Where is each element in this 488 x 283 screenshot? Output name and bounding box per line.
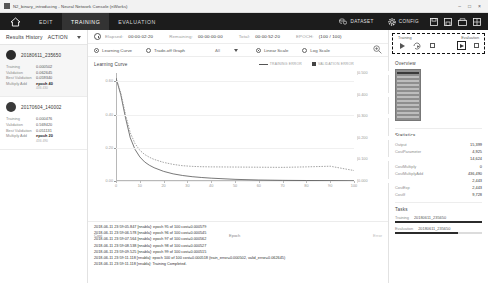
evaluation-control-label: Evaluation <box>461 36 479 40</box>
legend-item-training-error[interactable]: TRAINING ERROR <box>259 62 302 66</box>
training-play-icon[interactable] <box>398 41 407 50</box>
legend-item-validation-error[interactable]: VALIDATION ERROR <box>312 62 354 66</box>
total-label: Total: <box>239 34 250 39</box>
statistic-value: 2,443 <box>472 177 482 184</box>
axis-label-epoch: Epoch <box>229 233 240 238</box>
filter-dropdown[interactable]: All <box>215 48 238 53</box>
radio-learning-curve[interactable]: Learning Curve <box>94 48 132 53</box>
radio-log-scale[interactable]: Log Scale <box>302 48 330 53</box>
axis-label-error: Error <box>373 233 382 238</box>
x-tick <box>354 181 355 183</box>
statistic-value: 15,399 <box>470 141 482 148</box>
remaining-value: 00:00:00:00 <box>198 34 223 39</box>
radio-icon <box>94 48 99 53</box>
metric-key: Multiply Add <box>6 81 36 87</box>
elapsed-value: 00:00:02:20 <box>128 34 153 39</box>
y-tick-label-right: 0.100 <box>357 157 457 161</box>
result-card-1[interactable]: 20170604_140002 Training0.000476 Validat… <box>0 97 87 149</box>
tab-training[interactable]: TRAINING <box>62 13 109 30</box>
close-icon[interactable]: × <box>478 4 481 9</box>
result-id: 20180611_235650 <box>21 53 61 58</box>
statistic-name: CostIf <box>395 191 472 198</box>
evaluation-play-icon[interactable] <box>457 41 466 50</box>
x-tick-label: 40 <box>209 184 213 188</box>
window-title: N2_binary_introducing - Neural Network C… <box>13 4 128 9</box>
axis-label-cost: Cost <box>94 233 102 238</box>
chart-legend: TRAINING ERROR VALIDATION ERROR <box>259 62 354 66</box>
dataset-button[interactable]: DATASET <box>332 18 380 25</box>
task-row[interactable]: Training20180611_235650 <box>395 215 482 223</box>
evaluation-stop-icon[interactable] <box>472 41 481 50</box>
sidebar-header: Results History ACTION <box>0 30 87 45</box>
series-validation-error <box>116 78 354 171</box>
legend-label: TRAINING ERROR <box>270 62 302 66</box>
filter-value: All <box>215 48 220 53</box>
grid-line <box>116 81 354 82</box>
minimize-icon[interactable]: – <box>458 4 461 9</box>
tab-edit[interactable]: EDIT <box>30 13 62 30</box>
elapsed-label: Elapsed: <box>105 34 123 39</box>
radio-tradeoff-graph[interactable]: Trade-off Graph <box>146 48 185 53</box>
dataset-label: DATASET <box>350 19 373 24</box>
x-tick-label: 70 <box>280 184 284 188</box>
network-diagram-thumbnail[interactable] <box>395 69 421 121</box>
x-tick-label: 30 <box>185 184 189 188</box>
save-as-icon[interactable] <box>444 18 452 26</box>
radio-linear-scale-label: Linear Scale <box>264 48 288 53</box>
tasks-title: Tasks <box>389 203 488 215</box>
run-controls: Training Evaluation <box>392 33 485 54</box>
plot-area[interactable]: 0.000.200.400.600.0000.1000.2000.3000.40… <box>116 73 354 181</box>
statistic-row: CostMultiply0 <box>395 163 482 170</box>
tab-evaluation[interactable]: EVALUATION <box>109 13 165 30</box>
epoch-value: (100 / 100) <box>319 34 342 39</box>
task-label: Evaluation <box>395 226 413 231</box>
x-tick <box>235 181 236 183</box>
body: Results History ACTION 20180611_235650 T… <box>0 30 488 283</box>
metric-subvalue: 436 490 <box>6 139 81 143</box>
maximize-icon[interactable]: □ <box>468 4 471 9</box>
training-resume-play-icon[interactable] <box>413 41 422 50</box>
statistic-name: CostExp <box>395 184 472 191</box>
graph-options-bar: Learning Curve Trade-off Graph All Linea… <box>88 44 388 57</box>
x-tick <box>259 181 260 183</box>
task-row[interactable]: Evaluation20180611_235650 <box>395 226 482 234</box>
legend-swatch <box>312 62 316 66</box>
statistic-row: CostIf9,728 <box>395 191 482 198</box>
zoom-in-icon[interactable] <box>373 45 382 55</box>
radio-linear-scale[interactable]: Linear Scale <box>256 48 288 53</box>
run-controls-buttons <box>396 41 481 50</box>
action-menu-label[interactable]: ACTION <box>48 34 68 40</box>
chevron-down-icon[interactable] <box>77 36 81 39</box>
app-icon <box>4 3 10 9</box>
config-label: CONFIG <box>399 19 419 24</box>
total-value: 00:00:52:20 <box>255 34 280 39</box>
x-tick-label: 50 <box>233 184 237 188</box>
result-status-dot <box>6 102 16 112</box>
nav-icon-group <box>426 18 488 26</box>
statistic-value: 14,624 <box>470 155 482 162</box>
y-tick-label-right: 0.000 <box>357 179 457 183</box>
export-icon[interactable] <box>458 18 467 26</box>
metric-subvalue: 436 430 <box>6 86 81 90</box>
task-progress-fill <box>395 221 482 223</box>
x-tick <box>116 181 117 183</box>
grid-icon[interactable] <box>473 18 481 26</box>
save-icon[interactable] <box>430 18 438 26</box>
result-card-0[interactable]: 20180611_235650 Training0.000502 Validat… <box>0 45 87 97</box>
statistic-row: CostParameter4,925 <box>395 148 482 155</box>
config-button[interactable]: CONFIG <box>381 18 426 26</box>
training-log[interactable]: 2018-06-11 23:59:05.847 [nnabla]: epoch … <box>88 221 388 283</box>
nav-bar: EDIT TRAINING EVALUATION DATASET CONFIG <box>0 13 488 30</box>
nav-right-group: DATASET CONFIG <box>332 13 488 30</box>
home-icon[interactable] <box>0 17 30 27</box>
x-tick <box>187 181 188 183</box>
x-tick <box>283 181 284 183</box>
training-stop-icon[interactable] <box>428 41 437 50</box>
x-tick-label: 60 <box>257 184 261 188</box>
task-progress-bar <box>395 232 482 234</box>
radio-learning-curve-label: Learning Curve <box>102 48 132 53</box>
radio-tradeoff-graph-label: Trade-off Graph <box>154 48 185 53</box>
remaining-label: Remaining: <box>169 34 193 39</box>
task-label: Training <box>395 215 409 220</box>
task-progress-fill <box>395 232 458 234</box>
